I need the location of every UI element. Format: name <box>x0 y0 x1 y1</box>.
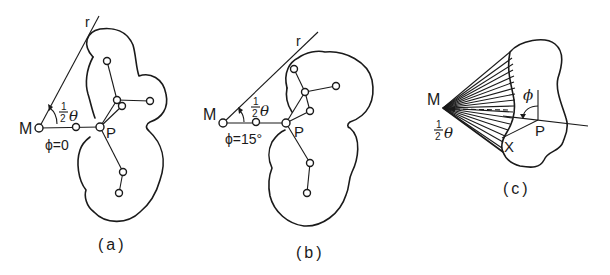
panel-a: r M P 1 2 θ ϕ=0 (a) <box>19 14 167 253</box>
label-phi-a: ϕ=0 <box>45 137 69 153</box>
angle-arc-a <box>50 108 57 124</box>
label-half-num-b: 1 <box>253 96 259 107</box>
label-half-den-b: 2 <box>252 108 258 119</box>
ray-r-b <box>223 32 318 123</box>
line-x-p-c <box>502 120 538 138</box>
caption-c: (c) <box>503 180 531 197</box>
label-m-c: M <box>427 91 440 108</box>
atom-p-b <box>282 119 290 127</box>
label-theta-b: θ <box>260 102 269 120</box>
label-p-a: P <box>106 124 116 141</box>
axis-mp-a <box>39 127 100 128</box>
caption-a: (a) <box>98 236 127 253</box>
label-x-c: X <box>504 138 514 155</box>
label-r-b: r <box>296 33 301 49</box>
atom-p-a <box>96 123 104 131</box>
label-phi-b: ϕ=15° <box>225 131 262 147</box>
label-r-a: r <box>85 14 90 30</box>
label-phi-c: ϕ <box>523 86 533 104</box>
label-half-num-a: 1 <box>61 101 67 112</box>
label-m-b: M <box>203 106 216 123</box>
label-half-num-c: 1 <box>436 119 442 130</box>
surface-inner-arc-a <box>86 57 95 118</box>
label-half-den-c: 2 <box>435 131 441 142</box>
panel-c: M ϕ P X 1 2 θ (c) <box>427 40 588 197</box>
phi-arc-c <box>523 106 538 117</box>
line-through-p-c <box>503 116 588 126</box>
caption-b: (b) <box>296 244 325 261</box>
label-half-den-a: 2 <box>60 113 66 124</box>
surface-outline-b <box>269 51 373 226</box>
figure-canvas: r M P 1 2 θ ϕ=0 (a) <box>0 0 610 275</box>
label-p-b: P <box>294 123 304 140</box>
panel-b: r M P 1 2 θ ϕ=15° (b) <box>203 32 373 261</box>
label-theta-c: θ <box>444 124 453 142</box>
label-m-a: M <box>19 120 32 137</box>
atom-m-b <box>219 119 227 127</box>
atom-m-a <box>35 124 43 132</box>
angle-arc-b <box>240 111 244 122</box>
label-p-c: P <box>535 122 545 139</box>
label-theta-a: θ <box>69 107 78 125</box>
surface-inner-arc-b <box>286 88 292 112</box>
